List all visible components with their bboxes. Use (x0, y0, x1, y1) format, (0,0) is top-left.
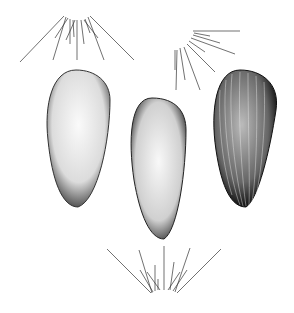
pappus-bottom (107, 246, 221, 293)
pappus-top-left (20, 16, 134, 62)
illustration-svg (0, 0, 294, 313)
seed-center (131, 98, 186, 239)
seed-right (214, 70, 277, 207)
botanical-illustration (0, 0, 294, 313)
seed-left (47, 70, 110, 207)
